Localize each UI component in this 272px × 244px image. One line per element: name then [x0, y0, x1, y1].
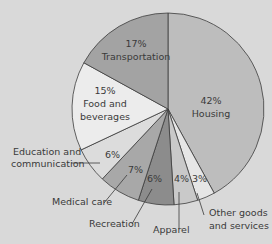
med-pct: 7%	[128, 164, 143, 175]
med-label: Medical care	[52, 196, 112, 207]
other-label-2: and services	[209, 220, 269, 231]
housing-label: Housing	[192, 108, 231, 119]
food-label-2: beverages	[80, 111, 130, 122]
transport-label: Transportation	[101, 51, 171, 62]
edu-pct: 6%	[105, 149, 120, 160]
other-pct: 3%	[192, 173, 207, 184]
food-label-1: Food and	[83, 98, 127, 109]
pie-chart: 17% Transportation 42% Housing 15% Food …	[0, 0, 272, 244]
rec-label: Recreation	[89, 218, 140, 229]
edu-label-2: communication	[11, 158, 84, 169]
rec-pct: 6%	[147, 173, 162, 184]
food-pct: 15%	[94, 85, 115, 96]
transport-pct: 17%	[125, 38, 146, 49]
housing-pct: 42%	[200, 95, 221, 106]
pie-chart-svg: 17% Transportation 42% Housing 15% Food …	[0, 0, 272, 244]
app-pct: 4%	[174, 173, 189, 184]
app-label: Apparel	[153, 224, 190, 235]
edu-label-1: Education and	[13, 146, 81, 157]
other-label-1: Other goods	[209, 207, 268, 218]
